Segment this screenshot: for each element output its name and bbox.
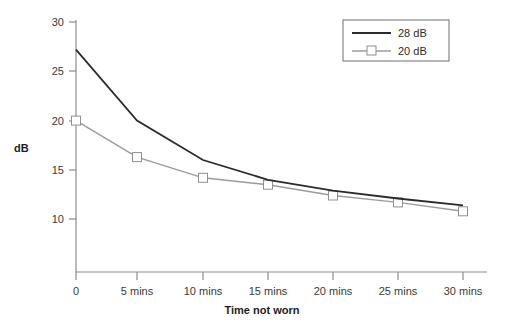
x-tick-label-5: 25 mins xyxy=(368,285,428,297)
data-point-marker xyxy=(72,116,81,125)
x-tick-label-0: 0 xyxy=(46,285,106,297)
legend-entry-28db: 28 dB xyxy=(398,27,427,39)
x-axis-title: Time not worn xyxy=(202,304,322,316)
x-tick-label-2: 10 mins xyxy=(173,285,233,297)
data-point-marker xyxy=(264,180,273,189)
x-tick-label-1: 5 mins xyxy=(107,285,167,297)
y-axis-title: dB xyxy=(14,142,29,154)
y-tick-label-0: 30 xyxy=(38,16,64,28)
data-point-marker xyxy=(459,207,468,216)
line-chart: 30 25 20 15 10 0 5 mins 10 mins 15 mins … xyxy=(0,0,512,328)
legend-swatch-20db-marker xyxy=(367,46,376,55)
y-tick-label-4: 10 xyxy=(38,213,64,225)
series-markers-20db xyxy=(72,116,468,216)
series-line-20db xyxy=(76,121,463,212)
plot-area xyxy=(0,0,512,328)
legend-box xyxy=(343,20,449,61)
x-tick-label-3: 15 mins xyxy=(238,285,298,297)
y-tick-label-1: 25 xyxy=(38,65,64,77)
x-tick-label-6: 30 mins xyxy=(433,285,493,297)
y-tick-label-3: 15 xyxy=(38,164,64,176)
data-point-marker xyxy=(133,153,142,162)
x-tick-label-4: 20 mins xyxy=(303,285,363,297)
x-axis-ticks xyxy=(76,272,463,280)
data-point-marker xyxy=(329,191,338,200)
y-tick-label-2: 20 xyxy=(38,115,64,127)
legend-entry-20db: 20 dB xyxy=(398,45,427,57)
data-point-marker xyxy=(199,173,208,182)
